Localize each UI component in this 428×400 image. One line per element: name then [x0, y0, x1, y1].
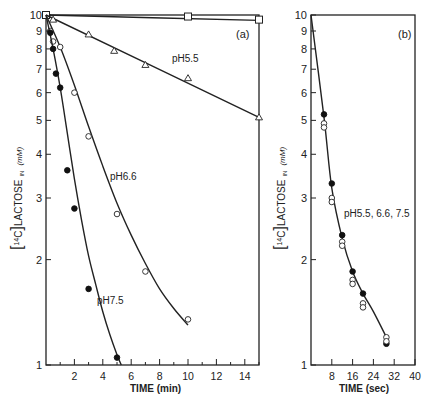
x-tick-label: 6 — [128, 370, 134, 382]
x-tick-label: 4 — [100, 370, 106, 382]
y-tick-label: 2 — [36, 254, 42, 266]
square-marker — [256, 16, 263, 23]
x-tick-label: 40 — [409, 370, 421, 382]
open-circle-marker — [321, 125, 327, 131]
square-marker — [185, 13, 192, 20]
panel-a-series — [43, 12, 263, 366]
open-circle-marker — [72, 90, 78, 96]
curve-control — [46, 15, 259, 20]
y-tick-label: 3 — [36, 192, 42, 204]
curve-combined — [311, 15, 386, 337]
panel-b-y-label: [14C]LACTOSEIN(mM) — [271, 147, 288, 250]
filled-circle-marker — [72, 206, 78, 212]
y-tick-label: 9 — [301, 25, 307, 37]
panel-a-chart: 12345678910 2468101214 (a) pH5.5 pH6.6 p… — [8, 9, 263, 394]
panel-b-y-axis: 12345678910 — [295, 9, 316, 371]
open-circle-marker — [143, 269, 149, 275]
y-tick-label: 5 — [301, 114, 307, 126]
filled-circle-marker — [114, 355, 120, 361]
open-circle-marker — [114, 211, 120, 217]
curve-pH55 — [46, 15, 259, 117]
filled-circle-marker — [360, 291, 366, 297]
x-tick-label: 16 — [347, 370, 359, 382]
y-tick-label: 8 — [36, 43, 42, 55]
x-tick-label: 8 — [329, 370, 335, 382]
y-tick-label: 8 — [301, 43, 307, 55]
label-ph66: pH6.6 — [110, 171, 137, 182]
open-circle-marker — [360, 305, 366, 311]
x-tick-label: 32 — [388, 370, 400, 382]
panel-b-tag: (b) — [398, 28, 411, 40]
filled-circle-marker — [86, 286, 92, 292]
y-tick-label: 9 — [36, 25, 42, 37]
open-circle-marker — [339, 243, 345, 249]
panel-b-x-label: TIME (sec) — [339, 383, 389, 394]
filled-circle-marker — [53, 71, 59, 77]
label-ph55: pH5.5 — [172, 53, 199, 64]
filled-circle-marker — [47, 30, 53, 36]
panel-a-y-axis: 12345678910 — [30, 9, 51, 371]
x-tick-label: 12 — [211, 370, 223, 382]
panel-b-series — [311, 15, 389, 347]
open-circle-marker — [350, 281, 356, 287]
x-tick-label: 24 — [368, 370, 380, 382]
panel-b-x-axis: 816243240 — [329, 359, 421, 382]
panel-b-frame — [311, 15, 415, 365]
filled-circle-marker — [350, 269, 356, 275]
open-circle-marker — [86, 134, 92, 140]
filled-circle-marker — [50, 46, 56, 52]
panel-a-y-label: [14C]LACTOSEIN(mM) — [8, 147, 25, 250]
y-tick-label: 10 — [295, 9, 307, 21]
y-tick-label: 7 — [301, 63, 307, 75]
open-circle-marker — [384, 338, 390, 344]
x-tick-label: 2 — [71, 370, 77, 382]
panel-a-x-axis: 2468101214 — [60, 359, 259, 382]
x-tick-label: 10 — [182, 370, 194, 382]
figure: 12345678910 2468101214 (a) pH5.5 pH6.6 p… — [0, 0, 428, 400]
svg-text:[14C]LACTOSEIN(mM): [14C]LACTOSEIN(mM) — [271, 147, 288, 250]
y-tick-label: 4 — [301, 148, 307, 160]
curve-pH75 — [46, 15, 121, 365]
open-circle-marker — [185, 317, 191, 323]
y-tick-label: 4 — [36, 148, 42, 160]
open-circle-marker — [329, 199, 335, 205]
filled-circle-marker — [65, 167, 71, 173]
panel-a-frame — [46, 15, 259, 365]
y-tick-label: 3 — [301, 192, 307, 204]
y-tick-label: 1 — [301, 359, 307, 371]
y-tick-label: 5 — [36, 114, 42, 126]
y-tick-label: 10 — [30, 9, 42, 21]
x-tick-label: 8 — [157, 370, 163, 382]
filled-circle-marker — [339, 232, 345, 238]
panel-a-x-label: TIME (min) — [130, 383, 181, 394]
y-tick-label: 6 — [36, 87, 42, 99]
x-tick-label: 14 — [239, 370, 251, 382]
panel-b-chart: 12345678910 816243240 (b) pH5.5, 6.6, 7.… — [271, 9, 421, 394]
open-circle-marker — [57, 44, 63, 50]
filled-circle-marker — [321, 112, 327, 118]
triangle-marker — [185, 75, 192, 81]
y-tick-label: 2 — [301, 254, 307, 266]
y-tick-label: 7 — [36, 63, 42, 75]
filled-circle-marker — [57, 85, 63, 91]
svg-text:[14C]LACTOSEIN(mM): [14C]LACTOSEIN(mM) — [8, 147, 25, 250]
y-tick-label: 1 — [36, 359, 42, 371]
panel-a-tag: (a) — [236, 28, 249, 40]
filled-circle-marker — [329, 181, 335, 187]
label-ph75: pH7.5 — [97, 295, 124, 306]
label-ph-all: pH5.5, 6.6, 7.5 — [344, 208, 410, 219]
y-tick-label: 6 — [301, 87, 307, 99]
